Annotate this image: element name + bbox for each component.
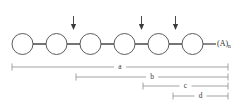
measure-a-label: a [118,62,122,71]
measure-d-label: d [199,91,203,100]
measure-d: d [173,91,228,100]
measure-a: a [12,62,228,71]
measure-c: c [143,81,228,90]
chain-node-5 [148,34,169,55]
terminal-label: (A)n [217,39,231,48]
measure-c-label: c [184,81,188,90]
arrow-3-head [173,24,178,30]
chain-node-6 [182,34,203,55]
terminal-label-group: (A)n [217,39,231,48]
chain-node-3 [80,34,101,55]
chain-node-4 [114,34,135,55]
chain-node-1 [12,34,33,55]
arrow-2 [139,16,144,30]
arrow-2-head [139,24,144,30]
polymer-chain-diagram: (A)n a b c d [0,0,242,108]
measure-b-label: b [150,72,154,81]
terminal-label-subscript: n [228,43,231,49]
chain-node-2 [46,34,67,55]
diagram-canvas: (A)n a b c d [0,0,242,108]
measure-b: b [76,72,228,81]
arrow-1-head [71,24,76,30]
arrow-1 [71,16,76,30]
arrow-3 [173,16,178,30]
